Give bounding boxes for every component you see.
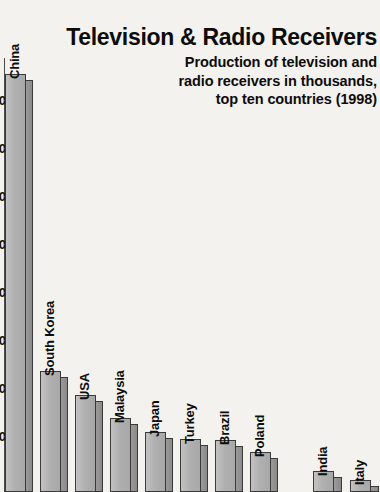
title-block: Television & Radio Receivers Production … <box>55 24 377 109</box>
bar[interactable] <box>5 74 33 492</box>
bar-front-face <box>180 439 201 492</box>
bar-category-label: Brazil <box>218 411 231 445</box>
bar-side-face <box>334 477 342 492</box>
bar-category-label: Poland <box>253 415 266 457</box>
bar[interactable] <box>250 452 278 492</box>
bar-side-face <box>61 377 68 492</box>
bar-side-face <box>371 486 379 492</box>
bar-category-label: South Korea <box>43 301 56 376</box>
bar-category-label: India <box>316 447 329 476</box>
bar[interactable] <box>215 440 243 492</box>
bar-category-label: Malaysia <box>113 370 126 423</box>
bar[interactable] <box>75 395 103 492</box>
bar-front-face <box>75 395 96 492</box>
bar[interactable] <box>40 371 68 492</box>
bar-category-label: China <box>8 44 21 79</box>
bar-category-label: USA <box>78 373 91 400</box>
bar-side-face <box>271 458 278 492</box>
page-title: Television & Radio Receivers <box>55 24 377 50</box>
subtitle-line-3: top ten countries (1998) <box>55 90 377 109</box>
bar-category-label: Turkey <box>183 404 196 444</box>
bar-chart: 00000000 ChinaSouth KoreaUSAMalaysiaJapa… <box>0 0 380 492</box>
subtitle-line-2: radio receivers in thousands, <box>55 72 377 91</box>
bar-side-face <box>26 80 33 492</box>
bar-front-face <box>5 74 26 492</box>
bar-category-label: Italy <box>353 460 366 485</box>
bar[interactable] <box>110 418 138 492</box>
bar-front-face <box>110 418 131 492</box>
subtitle-line-1: Production of television and <box>55 53 377 72</box>
bar-front-face <box>40 371 61 492</box>
bar-side-face <box>201 445 208 492</box>
bar-side-face <box>166 438 173 492</box>
bar-side-face <box>131 424 138 492</box>
bar-front-face <box>250 452 271 492</box>
bar-category-label: Japan <box>148 400 161 437</box>
bar-side-face <box>96 401 103 492</box>
bar-front-face <box>145 432 166 492</box>
bar-front-face <box>215 440 236 492</box>
chart-subtitle: Production of television and radio recei… <box>55 53 377 109</box>
bar-side-face <box>236 446 243 492</box>
bar[interactable] <box>180 439 208 492</box>
bar[interactable] <box>145 432 173 492</box>
